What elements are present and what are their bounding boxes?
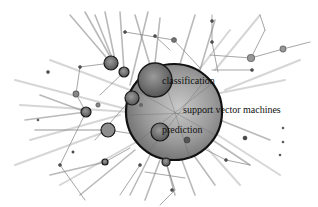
node-n5[interactable] <box>101 123 115 137</box>
label-support-vector-machines: support vector machines <box>183 104 281 115</box>
node-n9[interactable] <box>280 46 286 52</box>
node-n2[interactable] <box>119 67 129 77</box>
label-prediction: prediction <box>162 124 203 135</box>
node-n7[interactable] <box>162 158 170 166</box>
node-n6[interactable] <box>102 159 108 165</box>
node-n8[interactable] <box>248 55 255 62</box>
network-diagram: classification support vector machines p… <box>0 0 318 207</box>
node-n1[interactable] <box>104 56 118 70</box>
node-n10[interactable] <box>73 91 79 97</box>
node-n3[interactable] <box>125 91 139 105</box>
node-n11[interactable] <box>172 38 176 42</box>
node-n4[interactable] <box>81 107 91 117</box>
label-classification: classification <box>162 75 215 86</box>
